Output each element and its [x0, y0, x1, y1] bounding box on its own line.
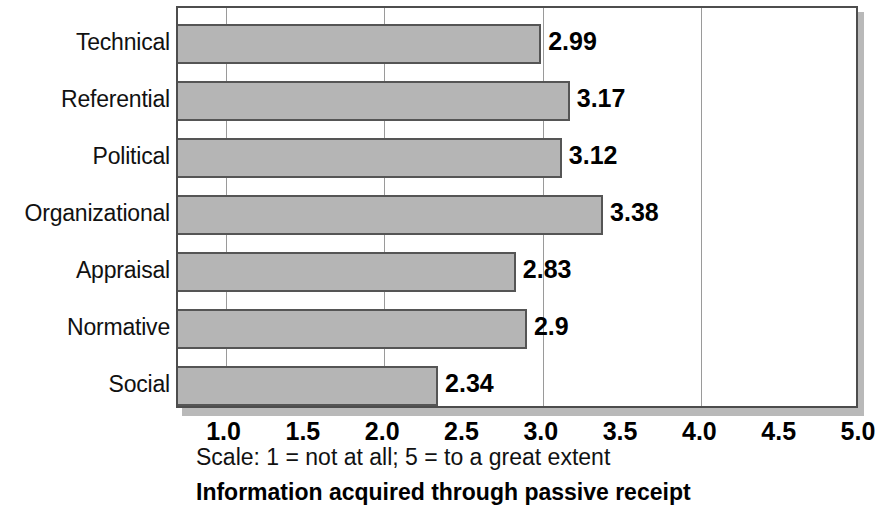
bar-value-label: 2.9 — [534, 314, 569, 339]
bar — [178, 309, 527, 349]
bar — [178, 252, 516, 292]
bar-value-label: 2.99 — [548, 29, 597, 54]
bar-value-label: 3.12 — [569, 143, 618, 168]
category-label: Technical — [0, 31, 170, 54]
bar — [178, 195, 603, 235]
scale-note: Scale: 1 = not at all; 5 = to a great ex… — [196, 446, 610, 469]
category-label: Political — [0, 145, 170, 168]
figure-title: Information acquired through passive rec… — [196, 481, 691, 504]
bar-value-label: 2.34 — [445, 371, 494, 396]
bar — [178, 81, 570, 121]
x-tick-label: 1.5 — [285, 419, 320, 444]
x-tick-label: 3.0 — [523, 419, 558, 444]
category-label: Organizational — [0, 202, 170, 225]
y-axis-category-labels: TechnicalReferentialPoliticalOrganizatio… — [0, 6, 170, 408]
x-tick-label: 2.5 — [444, 419, 479, 444]
x-tick-label: 5.0 — [841, 419, 876, 444]
category-label: Referential — [0, 88, 170, 111]
bar-value-label: 3.38 — [610, 200, 659, 225]
x-tick-label: 3.5 — [603, 419, 638, 444]
bar-chart-figure: TechnicalReferentialPoliticalOrganizatio… — [0, 0, 884, 511]
plot-area — [176, 6, 858, 408]
bar — [178, 24, 541, 64]
category-label: Appraisal — [0, 259, 170, 282]
x-tick-label: 1.0 — [206, 419, 241, 444]
bar — [178, 138, 562, 178]
category-label: Normative — [0, 316, 170, 339]
bar — [178, 366, 438, 406]
category-label: Social — [0, 373, 170, 396]
plot-shadow-right — [858, 12, 864, 410]
x-tick-label: 2.0 — [365, 419, 400, 444]
x-tick-label: 4.5 — [761, 419, 796, 444]
gridline-4 — [701, 8, 702, 406]
bar-value-label: 3.17 — [577, 86, 626, 111]
plot-shadow-bottom — [182, 408, 864, 416]
x-tick-label: 4.0 — [682, 419, 717, 444]
bar-value-label: 2.83 — [523, 257, 572, 282]
